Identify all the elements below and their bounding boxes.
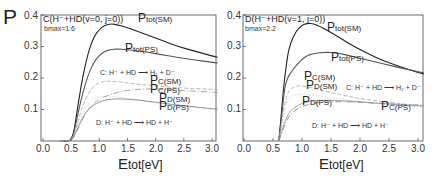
series-label-ptot-sm: Ptot(SM) [327, 20, 362, 34]
x-axis-label-rest: tot[eV] [128, 158, 163, 172]
label-sub: C(SM) [312, 73, 335, 82]
label-sub: D(PS) [167, 103, 189, 112]
x-axis-label-main: E [118, 155, 128, 172]
x-tick-label: 0.0 [36, 143, 50, 154]
y-tick-label: 0.3 [24, 40, 38, 51]
series-label-ptot-ps: Ptot(PS) [125, 41, 158, 55]
reaction-d-label: D: H⁻ + HD ⟶ HD + H⁻ [312, 122, 389, 129]
x-tick-label: 0.5 [266, 143, 280, 154]
label-sub: tot(PS) [339, 54, 364, 63]
label-sub: D(SM) [314, 82, 337, 91]
label-main: P [381, 99, 389, 113]
y-tick-label: 0.1 [227, 103, 241, 114]
x-ticks: 0.0 0.5 1.0 1.5 2.0 2.5 3.0 [36, 143, 219, 154]
label-sub: C(SM) [158, 77, 181, 86]
y-axis-label: P [3, 5, 17, 28]
label-main: P [125, 41, 133, 55]
label-main: P [327, 20, 335, 34]
label-main: P [159, 99, 167, 113]
panel-title: C(H⁻+HD(v=0, j=0)) [43, 14, 123, 24]
series-line-ptot-ps [60, 49, 218, 141]
figure: P 0.1 0.2 0.3 0.4 0.0 0.5 1.0 1.5 2.0 2.… [0, 0, 440, 176]
x-tick-label: 2.5 [382, 143, 396, 154]
label-sub: C(PS) [389, 103, 411, 112]
y-ticks: 0.1 0.2 0.3 0.4 [227, 10, 241, 114]
x-tick-label: 2.5 [177, 143, 191, 154]
x-tick-label: 0.5 [64, 143, 78, 154]
bmax-value: max=1.6 [48, 25, 75, 32]
left-panel: P 0.1 0.2 0.3 0.4 0.0 0.5 1.0 1.5 2.0 2.… [3, 5, 219, 172]
x-axis-label: Etot[eV] [118, 155, 163, 172]
x-axis-label: Etot[eV] [319, 155, 364, 172]
label-sub: tot(SM) [146, 15, 173, 24]
right-panel: 0.1 0.2 0.3 0.4 0.0 0.5 1.0 1.5 2.0 2.5 … [227, 10, 425, 172]
x-tick-label: 3.0 [205, 143, 219, 154]
reaction-c-label: C: H⁻ + HD ⟶ H₂ + D⁻ [346, 84, 421, 91]
y-tick-label: 0.2 [227, 71, 241, 82]
label-main: P [331, 50, 339, 64]
series-labels: Ptot(SM) Ptot(PS) PC(SM) PC(PS) PD(SM) P… [125, 11, 190, 113]
reaction-d-label: D: H⁻ + HD ⟶ HD + H⁻ [96, 119, 173, 126]
x-axis-label-main: E [319, 155, 329, 172]
x-tick-label: 0.0 [237, 143, 251, 154]
bmax-label: bmax=2.2 [245, 25, 276, 32]
y-tick-label: 0.4 [227, 10, 241, 21]
label-sub: D(PS) [310, 98, 332, 107]
x-tick-label: 2.0 [149, 143, 163, 154]
panel-title: D(H⁻+HD(v=1, j=0)) [245, 14, 325, 24]
label-main: P [302, 94, 310, 108]
reaction-c-label: C: H⁻ + HD ⟶ H₂ + D⁻ [100, 69, 175, 76]
bmax-value: max=2.2 [249, 25, 276, 32]
x-tick-label: 1.0 [92, 143, 106, 154]
y-tick-label: 0.3 [227, 40, 241, 51]
label-main: P [306, 78, 314, 92]
series-label-ptot-ps: Ptot(PS) [331, 50, 364, 64]
series-label-ptot-sm: Ptot(SM) [138, 11, 173, 25]
x-tick-label: 2.0 [353, 143, 367, 154]
x-axis-label-rest: tot[eV] [329, 158, 364, 172]
label-sub: tot(SM) [335, 24, 362, 33]
x-tick-label: 3.0 [411, 143, 425, 154]
x-tick-label: 1.5 [324, 143, 338, 154]
series-line-pc-sm [279, 86, 424, 141]
y-tick-label: 0.4 [24, 10, 38, 21]
y-tick-label: 0.2 [24, 71, 38, 82]
series-label-pc-ps: PC(PS) [381, 99, 411, 113]
label-main: P [138, 11, 146, 25]
x-ticks: 0.0 0.5 1.0 1.5 2.0 2.5 3.0 [237, 143, 425, 154]
bmax-label: bmax=1.6 [44, 25, 75, 32]
label-main: P [150, 82, 158, 96]
y-tick-label: 0.1 [24, 103, 38, 114]
x-tick-label: 1.0 [295, 143, 309, 154]
series-line-pc-ps [60, 89, 218, 141]
x-tick-label: 1.5 [121, 143, 135, 154]
label-sub: tot(PS) [133, 45, 158, 54]
series-label-pd-ps: PD(PS) [302, 94, 332, 108]
y-ticks: 0.1 0.2 0.3 0.4 [24, 10, 38, 114]
